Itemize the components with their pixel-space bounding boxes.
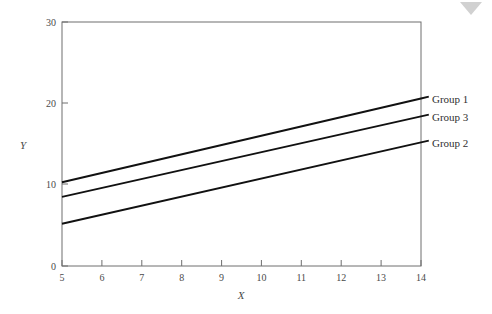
series-label-group-2: Group 2 [432, 137, 468, 149]
series-line-group-3 [62, 115, 429, 197]
y-tick-label-0: 0 [51, 261, 56, 272]
plot-frame [62, 22, 421, 266]
y-tick-label-10: 10 [46, 179, 56, 190]
y-axis-ticks [62, 22, 68, 266]
series-label-group-3: Group 3 [432, 111, 469, 123]
y-tick-label-20: 20 [46, 98, 56, 109]
series-label-group-1: Group 1 [432, 93, 468, 105]
line-chart-plot: 30 20 10 0 Y 5 6 7 8 9 10 11 [0, 0, 492, 314]
y-axis-tick-labels: 30 20 10 0 [46, 17, 56, 272]
series-labels: Group 1 Group 3 Group 2 [432, 93, 469, 149]
y-axis-title: Y [20, 139, 28, 151]
x-axis-ticks [62, 260, 421, 266]
x-tick-label-5: 5 [60, 272, 65, 283]
chart-figure: 30 20 10 0 Y 5 6 7 8 9 10 11 [0, 0, 492, 314]
x-axis-title: X [237, 289, 246, 301]
x-tick-label-12: 12 [336, 272, 346, 283]
x-axis-tick-labels: 5 6 7 8 9 10 11 12 13 14 [60, 272, 427, 283]
x-tick-label-6: 6 [99, 272, 104, 283]
x-tick-label-13: 13 [376, 272, 386, 283]
x-tick-label-14: 14 [416, 272, 426, 283]
series-line-group-2 [62, 141, 429, 224]
x-tick-label-7: 7 [139, 272, 144, 283]
x-tick-label-11: 11 [296, 272, 306, 283]
series-lines [62, 97, 429, 224]
x-tick-label-10: 10 [256, 272, 266, 283]
series-line-group-1 [62, 97, 429, 183]
x-tick-label-9: 9 [219, 272, 224, 283]
x-tick-label-8: 8 [179, 272, 184, 283]
y-tick-label-30: 30 [46, 17, 56, 28]
